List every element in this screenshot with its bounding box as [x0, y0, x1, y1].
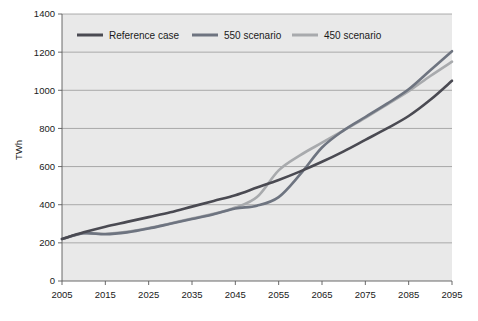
x-tick-label: 2065 — [311, 289, 332, 300]
legend-label-1: 550 scenario — [224, 30, 282, 41]
chart-container: 0200400600800100012001400 20052015202520… — [0, 0, 478, 321]
y-tick-label: 400 — [39, 199, 55, 210]
y-tick-label: 600 — [39, 161, 55, 172]
x-tick-label: 2005 — [51, 289, 72, 300]
x-tick-label: 2015 — [95, 289, 116, 300]
x-tick-label: 2045 — [225, 289, 246, 300]
y-tick-label: 1400 — [34, 8, 55, 19]
legend-label-2: 450 scenario — [324, 30, 382, 41]
x-tick-label: 2075 — [355, 289, 376, 300]
y-tick-label: 800 — [39, 123, 55, 134]
line-chart: 0200400600800100012001400 20052015202520… — [0, 0, 478, 321]
y-tick-label: 1200 — [34, 47, 55, 58]
x-tick-label: 2085 — [398, 289, 419, 300]
y-tick-label: 0 — [50, 275, 55, 286]
chart-legend: Reference case550 scenario450 scenario — [77, 30, 382, 41]
x-tick-label: 2055 — [268, 289, 289, 300]
legend-label-0: Reference case — [109, 30, 179, 41]
x-tick-label: 2025 — [138, 289, 159, 300]
y-axis-title: TWh — [13, 140, 24, 160]
y-tick-label: 1000 — [34, 85, 55, 96]
x-tick-label: 2095 — [441, 289, 462, 300]
plot-area-background — [62, 14, 452, 281]
x-tick-label: 2035 — [181, 289, 202, 300]
y-tick-label: 200 — [39, 237, 55, 248]
